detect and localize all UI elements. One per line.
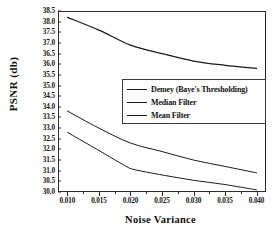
legend: Demey (Baye's Thresholding) Median Filte… — [122, 79, 266, 124]
legend-label-1: Median Filter — [151, 98, 196, 107]
y-tick-label: 32.0 — [43, 146, 55, 153]
x-tick-mark — [99, 192, 100, 196]
y-tick-label: 38.0 — [43, 18, 55, 25]
legend-item-2: Mean Filter — [127, 109, 265, 122]
x-tick-mark — [130, 192, 131, 196]
y-tick-label: 30.5 — [43, 178, 55, 185]
x-tick-label: 0.030 — [186, 197, 202, 205]
x-tick-label: 0.040 — [249, 197, 265, 205]
y-axis-title: PSNR (db) — [7, 48, 19, 120]
legend-label-0: Demey (Baye's Thresholding) — [151, 85, 248, 94]
x-tick-label: 0.020 — [123, 197, 139, 205]
x-tick-mark — [162, 192, 163, 196]
y-tick-mark — [58, 96, 61, 97]
x-tick-minor-mark — [83, 192, 84, 194]
x-tick-label: 0.035 — [217, 197, 233, 205]
y-tick-mark — [58, 117, 61, 118]
legend-label-2: Mean Filter — [151, 111, 190, 120]
y-tick-mark — [58, 11, 61, 12]
y-tick-label: 36.0 — [43, 61, 55, 68]
y-tick-label: 34.0 — [43, 103, 55, 110]
legend-item-1: Median Filter — [127, 96, 265, 109]
legend-line-icon — [127, 89, 147, 90]
x-tick-label: 0.015 — [91, 197, 107, 205]
x-axis-title: Noise Variance — [0, 214, 275, 225]
y-tick-label: 32.5 — [43, 135, 55, 142]
x-tick-minor-mark — [146, 192, 147, 194]
x-tick-minor-mark — [241, 192, 242, 194]
y-tick-mark — [58, 85, 61, 86]
y-tick-mark — [58, 106, 61, 107]
y-tick-mark — [58, 181, 61, 182]
y-tick-label: 33.0 — [43, 125, 55, 132]
y-tick-label: 38.5 — [43, 8, 55, 15]
y-tick-label: 37.5 — [43, 29, 55, 36]
series-line-2 — [67, 132, 256, 189]
legend-line-icon — [127, 102, 147, 103]
y-tick-mark — [58, 160, 61, 161]
y-tick-mark — [58, 149, 61, 150]
x-tick-mark — [67, 192, 68, 196]
x-tick-label: 0.025 — [154, 197, 170, 205]
y-tick-label: 34.5 — [43, 93, 55, 100]
y-tick-label: 30.0 — [43, 189, 55, 196]
y-tick-mark — [58, 128, 61, 129]
y-tick-mark — [58, 42, 61, 43]
y-tick-label: 35.0 — [43, 82, 55, 89]
x-tick-minor-mark — [115, 192, 116, 194]
series-line-0 — [67, 17, 256, 68]
y-tick-label: 35.5 — [43, 71, 55, 78]
y-tick-label: 37.0 — [43, 39, 55, 46]
y-tick-mark — [58, 192, 61, 193]
legend-line-icon — [127, 115, 147, 116]
x-tick-minor-mark — [209, 192, 210, 194]
y-axis-tick-labels: 30.030.531.031.532.032.533.033.534.034.5… — [22, 11, 55, 192]
chart-figure: PSNR (db) 30.030.531.031.532.032.533.033… — [0, 0, 275, 242]
y-tick-mark — [58, 170, 61, 171]
y-tick-label: 31.5 — [43, 157, 55, 164]
y-tick-mark — [58, 138, 61, 139]
y-tick-mark — [58, 21, 61, 22]
y-tick-mark — [58, 64, 61, 65]
y-tick-label: 31.0 — [43, 167, 55, 174]
x-tick-mark — [257, 192, 258, 196]
y-tick-label: 33.5 — [43, 114, 55, 121]
x-tick-mark — [225, 192, 226, 196]
x-tick-mark — [194, 192, 195, 196]
legend-item-0: Demey (Baye's Thresholding) — [127, 83, 265, 96]
y-tick-label: 36.5 — [43, 50, 55, 57]
y-tick-mark — [58, 53, 61, 54]
x-tick-label: 0.010 — [60, 197, 76, 205]
y-tick-mark — [58, 74, 61, 75]
x-tick-minor-mark — [178, 192, 179, 194]
y-tick-mark — [58, 32, 61, 33]
